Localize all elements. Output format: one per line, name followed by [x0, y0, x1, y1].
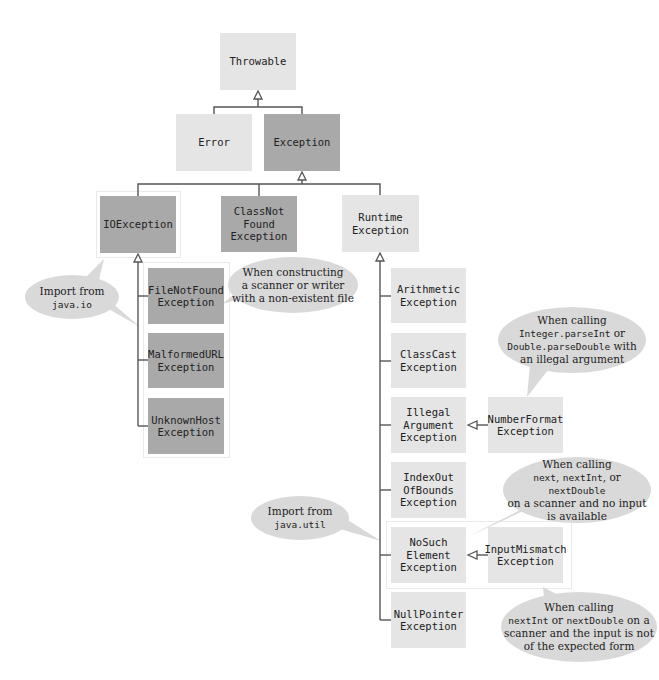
node-exception: Exception: [264, 114, 340, 171]
node-error: Error: [176, 114, 252, 171]
node-malformedurl-exception: MalformedURL Exception: [148, 333, 224, 388]
callout-text: an illegal argument: [520, 353, 624, 366]
node-filenotfound-exception: FileNotFound Exception: [148, 268, 224, 324]
callout-text: is available: [547, 510, 607, 523]
callout-code: nextInt: [508, 615, 548, 626]
callout-text: When constructing: [242, 266, 343, 279]
node-arithmetic-exception: Arithmetic Exception: [391, 268, 466, 323]
node-numberformat-exception: NumberFormat Exception: [488, 397, 563, 453]
node-indexoutofbounds-exception: IndexOut OfBounds Exception: [391, 462, 466, 518]
node-runtime-exception: Runtime Exception: [342, 195, 419, 252]
callout-text: with: [610, 340, 637, 352]
node-nosuchelement-exception: NoSuch Element Exception: [391, 527, 466, 583]
callout-import-java-util: Import from java.util: [251, 496, 349, 540]
callout-code: nextInt: [563, 472, 603, 483]
callout-text: on a: [624, 614, 650, 626]
callout-code: next: [533, 472, 556, 483]
callout-import-java-io: Import from java.io: [25, 276, 119, 320]
node-classcast-exception: ClassCast Exception: [391, 333, 466, 388]
callout-code: java.io: [52, 298, 92, 311]
callout-code: Integer.parseInt: [519, 328, 611, 339]
callout-text: Import from: [40, 285, 105, 298]
node-classnotfound-exception: ClassNot Found Exception: [221, 196, 297, 252]
callout-text: a scanner or writer: [242, 279, 345, 292]
node-illegalargument-exception: Illegal Argument Exception: [391, 397, 466, 453]
exception-hierarchy-diagram: Throwable Error Exception IOException Cl…: [0, 0, 659, 680]
node-throwable: Throwable: [220, 33, 296, 90]
callout-code: Double.parseDouble: [507, 341, 610, 352]
callout-code: nextDouble: [548, 485, 605, 496]
callout-text: with a non-existent file: [232, 292, 354, 305]
callout-text: When calling: [537, 314, 607, 327]
node-ioexception: IOException: [100, 196, 176, 253]
callout-text: on a scanner and no input: [508, 497, 647, 510]
callout-text: , or: [603, 471, 621, 483]
callout-text: of the expected form: [524, 640, 635, 653]
callout-text: ,: [556, 471, 563, 483]
callout-numberformat-note: When calling Integer.parseInt or Double.…: [498, 308, 646, 372]
callout-text: or: [548, 614, 566, 626]
callout-text: When calling: [542, 458, 612, 471]
callout-text: or: [610, 327, 625, 339]
callout-filenotfound-note: When constructing a scanner or writer wi…: [228, 258, 358, 312]
callout-text: Import from: [268, 505, 333, 518]
callout-code: nextDouble: [566, 615, 623, 626]
callout-code: java.util: [274, 518, 325, 531]
callout-nosuchelement-note: When calling next, nextInt, or nextDoubl…: [503, 458, 651, 522]
node-nullpointer-exception: NullPointer Exception: [391, 592, 466, 648]
callout-inputmismatch-note: When calling nextInt or nextDouble on a …: [501, 594, 657, 660]
node-unknownhost-exception: UnknownHost Exception: [148, 398, 224, 454]
callout-text: When calling: [544, 601, 614, 614]
node-inputmismatch-exception: InputMismatch Exception: [488, 527, 563, 583]
callout-text: scanner and the input is not: [504, 627, 654, 640]
